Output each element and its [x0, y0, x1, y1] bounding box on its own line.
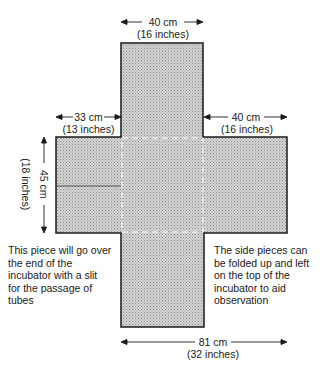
- right-width-cm: 40 cm: [228, 111, 264, 124]
- total-width-inches: (32 inches): [180, 348, 246, 361]
- right-width-inches: (16 inches): [210, 123, 284, 136]
- right-note: The side pieces can be folded up and lef…: [214, 244, 309, 307]
- top-width-cm: 40 cm: [142, 16, 184, 29]
- left-width-inches: (13 inches): [56, 123, 121, 136]
- top-width-inches: (16 inches): [122, 28, 204, 41]
- left-width-cm: 33 cm: [73, 111, 104, 124]
- height-cm: 45 cm: [38, 164, 51, 204]
- height-inches: (18 inches): [20, 154, 33, 214]
- left-note: This piece will go over the end of the i…: [8, 244, 111, 307]
- total-width-cm: 81 cm: [195, 336, 231, 349]
